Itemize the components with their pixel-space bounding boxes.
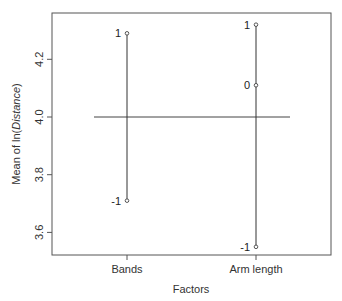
y-tick-label: 4.0 bbox=[33, 109, 45, 124]
x-tick-label: Arm length bbox=[229, 263, 282, 275]
level-label: -1 bbox=[111, 195, 121, 207]
y-tick-label: 3.8 bbox=[33, 167, 45, 182]
y-axis: 3.63.84.04.2 bbox=[33, 52, 52, 240]
y-axis-title-italic: Distance bbox=[10, 87, 22, 130]
level-label: 1 bbox=[115, 27, 121, 39]
level-point-marker bbox=[125, 32, 129, 36]
y-tick-label: 4.2 bbox=[33, 52, 45, 67]
series-arm-length: 10-1 bbox=[240, 19, 258, 253]
y-axis-title: Mean of ln(Distance) bbox=[10, 83, 22, 185]
y-axis-title-prefix: Mean of ln( bbox=[10, 129, 22, 184]
y-axis-title-suffix: ) bbox=[10, 83, 22, 87]
level-point-marker bbox=[125, 199, 129, 203]
level-label: 1 bbox=[244, 19, 250, 31]
series-group: 1-110-1 bbox=[111, 19, 258, 253]
x-axis: BandsArm length bbox=[111, 255, 282, 275]
level-point-marker bbox=[254, 245, 258, 249]
x-tick-label: Bands bbox=[111, 263, 143, 275]
main-effects-chart: 3.63.84.04.2 BandsArm length 1-110-1 Fac… bbox=[0, 0, 342, 301]
level-point-marker bbox=[254, 23, 258, 27]
y-tick-label: 3.6 bbox=[33, 225, 45, 240]
level-label: -1 bbox=[240, 241, 250, 253]
x-axis-title: Factors bbox=[173, 283, 210, 295]
level-label: 0 bbox=[244, 79, 250, 91]
level-point-marker bbox=[254, 83, 258, 87]
plot-frame bbox=[52, 13, 331, 255]
